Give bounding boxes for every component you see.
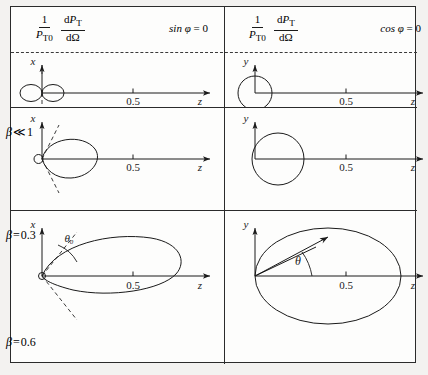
formula-left-denominator: PT0 bbox=[33, 28, 56, 44]
z-axis-label: z bbox=[197, 279, 203, 291]
z-axis-label: z bbox=[197, 161, 203, 173]
theta-0-label: θ₀ bbox=[64, 232, 73, 244]
plot-beta-0-3-cos-phi: 0.5 z y bbox=[224, 107, 428, 210]
theta-chord-line bbox=[255, 247, 316, 276]
plot-svg-ellipse-yz-06: θ 0.5 z y bbox=[224, 210, 428, 364]
z-axis-label: z bbox=[410, 161, 416, 173]
plot-svg-lobe-xz-03: 0.5 z x bbox=[11, 107, 224, 210]
z-axis-label: z bbox=[410, 95, 416, 107]
tick-label-0-5: 0.5 bbox=[339, 279, 353, 291]
z-axis-label: z bbox=[410, 279, 416, 291]
header-cell-cos-phi: 1 PT0 dPT dΩ cos φ = 0 bbox=[224, 7, 428, 52]
row-label-beta-0-6: β=0.6 bbox=[6, 335, 36, 350]
condition-sin-phi-symbol: sin φ bbox=[169, 22, 191, 34]
plot-beta-0-6-sin-phi: θ₀ 0.5 z x bbox=[11, 210, 224, 364]
plot-beta-0-6-cos-phi: θ 0.5 z y bbox=[224, 210, 428, 364]
row-label-beta-0-3: β=0.3 bbox=[6, 228, 36, 243]
formula-left-derivative: dPT dΩ bbox=[61, 14, 85, 43]
formula-left-d-numerator: dPT bbox=[61, 14, 85, 31]
condition-sin-phi-value: = 0 bbox=[194, 22, 208, 34]
forward-radiation-lobe bbox=[42, 237, 181, 294]
y-axis-label: y bbox=[243, 55, 249, 67]
theta-arc bbox=[302, 252, 312, 276]
formula-right-derivative: dPT dΩ bbox=[274, 14, 298, 43]
theta-ray bbox=[255, 237, 328, 276]
row-label-beta-ll-1: β≪1 bbox=[6, 125, 33, 140]
formula-right-d-denominator: dΩ bbox=[276, 31, 296, 44]
formula-left-fraction: 1 PT0 bbox=[33, 14, 56, 43]
condition-cos-phi: cos φ = 0 bbox=[380, 22, 421, 34]
beta-value-3: 0.6 bbox=[21, 335, 36, 349]
plot-svg-dipole-xz: 0.5 z x bbox=[11, 53, 224, 107]
tick-label-0-5: 0.5 bbox=[339, 161, 353, 173]
tick-label-0-5: 0.5 bbox=[126, 95, 140, 107]
formula-right-numerator: 1 bbox=[252, 14, 264, 28]
figure-root: 1 PT0 dPT dΩ sin φ = 0 1 PT0 bbox=[0, 0, 428, 375]
y-axis-label: y bbox=[243, 218, 249, 230]
tick-label-0-5: 0.5 bbox=[126, 279, 140, 291]
plot-beta-0-3-sin-phi: 0.5 z x bbox=[11, 107, 224, 210]
tick-label-0-5: 0.5 bbox=[126, 161, 140, 173]
formula-left-d-denominator: dΩ bbox=[63, 31, 83, 44]
formula-left: 1 PT0 dPT dΩ bbox=[33, 14, 85, 43]
beta-operator-3: = bbox=[12, 335, 21, 349]
beta-value-1: 1 bbox=[27, 125, 33, 139]
beta-operator-1: ≪ bbox=[12, 125, 27, 139]
condition-sin-phi: sin φ = 0 bbox=[169, 22, 208, 34]
figure-table: 1 PT0 dPT dΩ sin φ = 0 1 PT0 bbox=[10, 6, 416, 363]
z-axis-label: z bbox=[197, 95, 203, 107]
condition-cos-phi-symbol: cos φ bbox=[380, 22, 404, 34]
formula-right-denominator: PT0 bbox=[246, 28, 269, 44]
plot-svg-lobe-xz-06: θ₀ 0.5 z x bbox=[11, 210, 224, 364]
beta-value-2: 0.3 bbox=[21, 228, 36, 242]
dipole-lobe-backward bbox=[20, 85, 42, 102]
theta-label: θ bbox=[295, 254, 301, 268]
formula-right-fraction: 1 PT0 bbox=[246, 14, 269, 43]
formula-right: 1 PT0 dPT dΩ bbox=[246, 14, 298, 43]
header-cell-sin-phi: 1 PT0 dPT dΩ sin φ = 0 bbox=[11, 7, 224, 52]
x-axis-label: x bbox=[30, 112, 36, 124]
plot-beta-ll-1-cos-phi: 0.5 z y bbox=[224, 53, 428, 107]
plot-svg-circle-yz-03: 0.5 z y bbox=[224, 107, 428, 210]
beta-operator-2: = bbox=[12, 228, 21, 242]
formula-left-numerator: 1 bbox=[39, 14, 51, 28]
x-axis-label: x bbox=[30, 55, 36, 67]
plot-beta-ll-1-sin-phi: 0.5 z x bbox=[11, 53, 224, 107]
theta-ray-arrow bbox=[320, 237, 329, 244]
formula-right-d-numerator: dPT bbox=[274, 14, 298, 31]
theta-0-ray-lower-dashed bbox=[42, 276, 77, 320]
tick-label-0-5: 0.5 bbox=[339, 95, 353, 107]
plot-svg-circle-yz: 0.5 z y bbox=[224, 53, 428, 107]
condition-cos-phi-value: = 0 bbox=[407, 22, 421, 34]
y-axis-label: y bbox=[243, 112, 249, 124]
